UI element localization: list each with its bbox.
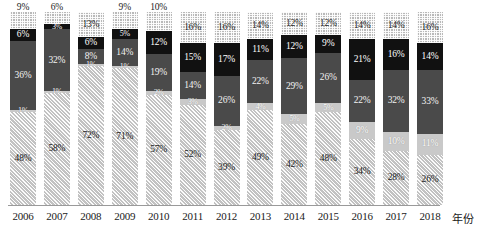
segment-value-label: 14% <box>388 21 405 31</box>
segment-series-4-black-2018[interactable]: 14% <box>417 43 443 70</box>
segment-series-5-checkered-2008[interactable]: 13% <box>78 12 104 37</box>
segment-series-4-black-2008[interactable]: 6% <box>78 37 104 49</box>
segment-value-label: 15% <box>184 53 201 63</box>
segment-series-5-checkered-2009[interactable]: 9% <box>112 12 138 29</box>
segment-value-label: 16% <box>218 23 235 33</box>
bar-column-2016[interactable]: 14%21%22%9%34% <box>349 12 375 205</box>
segment-value-label: 33% <box>422 97 439 107</box>
bar-column-2007[interactable]: 6%3%32%1%58% <box>44 12 70 205</box>
segment-series-3-dark-gray-2018[interactable]: 33% <box>417 70 443 134</box>
segment-value-label: 39% <box>218 163 235 173</box>
segment-series-1-hatched-2018[interactable]: 26% <box>417 155 443 205</box>
segment-value-label: 6% <box>85 38 97 48</box>
segment-series-3-dark-gray-2006[interactable]: 36% <box>10 41 36 110</box>
segment-series-4-black-2016[interactable]: 21% <box>349 39 375 80</box>
segment-value-label: 49% <box>252 153 269 163</box>
segment-series-1-hatched-2014[interactable]: 42% <box>281 124 307 205</box>
segment-value-label: 57% <box>150 145 167 155</box>
segment-series-1-hatched-2009[interactable]: 71% <box>112 68 138 205</box>
segment-series-3-dark-gray-2015[interactable]: 26% <box>315 53 341 103</box>
segment-series-4-black-2015[interactable]: 9% <box>315 35 341 52</box>
segment-value-label: 22% <box>252 77 269 87</box>
segment-series-4-black-2014[interactable]: 12% <box>281 35 307 58</box>
segment-value-label: 14% <box>184 81 201 91</box>
segment-value-label: 16% <box>388 50 405 60</box>
segment-series-2-light-gray-2018[interactable]: 11% <box>417 134 443 155</box>
segment-series-3-dark-gray-2012[interactable]: 26% <box>214 76 240 126</box>
segment-series-3-dark-gray-2017[interactable]: 32% <box>383 70 409 132</box>
segment-value-label: 17% <box>218 55 235 65</box>
bar-column-2011[interactable]: 16%15%14%3%52% <box>180 12 206 205</box>
segment-value-label: 48% <box>15 154 32 164</box>
segment-value-label: 11% <box>422 139 438 149</box>
x-axis-title: 年份 <box>452 210 474 226</box>
segment-series-4-black-2017[interactable]: 16% <box>383 39 409 70</box>
segment-series-2-light-gray-2017[interactable]: 10% <box>383 132 409 151</box>
segment-series-1-hatched-2016[interactable]: 34% <box>349 139 375 205</box>
segment-value-label: 36% <box>15 71 32 81</box>
segment-series-3-dark-gray-2013[interactable]: 22% <box>247 60 273 102</box>
segment-series-4-black-2006[interactable]: 6% <box>10 29 36 41</box>
segment-series-2-light-gray-2015[interactable]: 5% <box>315 103 341 113</box>
segment-series-4-black-2012[interactable]: 17% <box>214 43 240 76</box>
segment-series-2-light-gray-2013[interactable]: 4% <box>247 103 273 111</box>
segment-value-label: 9% <box>356 126 368 136</box>
segment-series-3-dark-gray-2016[interactable]: 22% <box>349 80 375 122</box>
segment-series-1-hatched-2012[interactable]: 39% <box>214 130 240 205</box>
segment-value-label: 6% <box>17 30 29 40</box>
segment-series-3-dark-gray-2007[interactable]: 32% <box>44 29 70 91</box>
segment-value-label: 5% <box>323 104 333 112</box>
segment-series-1-hatched-2011[interactable]: 52% <box>180 105 206 205</box>
bar-column-2008[interactable]: 13%6%8%1%72% <box>78 12 104 205</box>
segment-series-5-checkered-2013[interactable]: 14% <box>247 12 273 39</box>
segment-series-5-checkered-2017[interactable]: 14% <box>383 12 409 39</box>
segment-series-1-hatched-2013[interactable]: 49% <box>247 110 273 205</box>
bar-column-2017[interactable]: 14%16%32%10%28% <box>383 12 409 205</box>
bar-column-2012[interactable]: 16%17%26%2%39% <box>214 12 240 205</box>
segment-value-label: 10% <box>150 3 167 13</box>
segment-series-2-light-gray-2016[interactable]: 9% <box>349 122 375 139</box>
segment-value-label: 34% <box>354 167 371 177</box>
segment-series-1-hatched-2015[interactable]: 48% <box>315 112 341 205</box>
segment-series-1-hatched-2010[interactable]: 57% <box>146 95 172 205</box>
segment-value-label: 12% <box>286 19 303 29</box>
segment-value-label: 16% <box>184 23 201 33</box>
segment-series-5-checkered-2014[interactable]: 12% <box>281 12 307 35</box>
segment-series-1-hatched-2008[interactable]: 72% <box>78 66 104 205</box>
segment-series-4-black-2009[interactable]: 5% <box>112 29 138 39</box>
segment-series-5-checkered-2016[interactable]: 14% <box>349 12 375 39</box>
segment-value-label: 42% <box>286 160 303 170</box>
segment-series-5-checkered-2011[interactable]: 16% <box>180 12 206 43</box>
segment-value-label: 13% <box>82 20 99 30</box>
segment-series-5-checkered-2012[interactable]: 16% <box>214 12 240 43</box>
segment-series-5-checkered-2006[interactable]: 9% <box>10 12 36 29</box>
segment-series-4-black-2010[interactable]: 12% <box>146 31 172 54</box>
bar-column-2010[interactable]: 10%12%19%2%57% <box>146 12 172 205</box>
segment-series-4-black-2011[interactable]: 15% <box>180 43 206 72</box>
bar-column-2009[interactable]: 9%5%14%1%71% <box>112 12 138 205</box>
segment-series-1-hatched-2017[interactable]: 28% <box>383 151 409 205</box>
segment-series-4-black-2013[interactable]: 11% <box>247 39 273 60</box>
segment-value-label: 21% <box>354 55 371 65</box>
segment-series-1-hatched-2007[interactable]: 58% <box>44 93 70 205</box>
bar-column-2018[interactable]: 16%14%33%11%26% <box>417 12 443 205</box>
segment-series-3-dark-gray-2011[interactable]: 14% <box>180 72 206 99</box>
bar-column-2013[interactable]: 14%11%22%4%49% <box>247 12 273 205</box>
segment-value-label: 29% <box>286 82 303 92</box>
segment-value-label: 26% <box>218 96 235 106</box>
bar-column-2014[interactable]: 12%12%29%5%42% <box>281 12 307 205</box>
bar-column-2006[interactable]: 9%6%36%1%48% <box>10 12 36 205</box>
segment-series-3-dark-gray-2014[interactable]: 29% <box>281 58 307 114</box>
segment-series-5-checkered-2015[interactable]: 12% <box>315 12 341 35</box>
segment-value-label: 4% <box>255 103 265 111</box>
segment-series-5-checkered-2018[interactable]: 16% <box>417 12 443 43</box>
segment-value-label: 32% <box>48 56 65 66</box>
segment-value-label: 58% <box>48 144 65 154</box>
bar-column-2015[interactable]: 12%9%26%5%48% <box>315 12 341 205</box>
segment-series-2-light-gray-2014[interactable]: 5% <box>281 114 307 124</box>
segment-value-label: 14% <box>422 52 439 62</box>
segment-series-3-dark-gray-2010[interactable]: 19% <box>146 54 172 91</box>
segment-series-5-checkered-2010[interactable]: 10% <box>146 12 172 31</box>
segment-series-1-hatched-2006[interactable]: 48% <box>10 112 36 205</box>
stacked-bar-chart: 9%6%36%1%48%6%3%32%1%58%13%6%8%1%72%9%5%… <box>0 0 491 250</box>
